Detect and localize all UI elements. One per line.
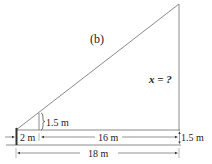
arrow-right-icon	[12, 136, 15, 138]
dist-person-stick-label: 2 m	[20, 132, 36, 143]
sight-line	[16, 4, 179, 130]
unknown-height-label: x = ?	[148, 73, 172, 85]
similar-triangles-diagram: (b) x = ? 1.5 m 1.5 m 2 m 16 m 18 m	[0, 0, 212, 164]
arrow-right-icon	[175, 136, 178, 138]
stick-height-label: 1.5 m	[46, 117, 69, 128]
person-icon	[15, 128, 17, 145]
arrow-left-icon	[41, 136, 44, 138]
arrow-left-icon	[17, 152, 20, 154]
total-distance-label: 18 m	[88, 148, 109, 159]
stick-brace-icon	[41, 113, 45, 130]
arrow-right-icon	[175, 152, 178, 154]
dist-stick-object-label: 16 m	[98, 132, 119, 143]
panel-label: (b)	[90, 32, 104, 46]
eye-height-label: 1.5 m	[181, 132, 204, 143]
